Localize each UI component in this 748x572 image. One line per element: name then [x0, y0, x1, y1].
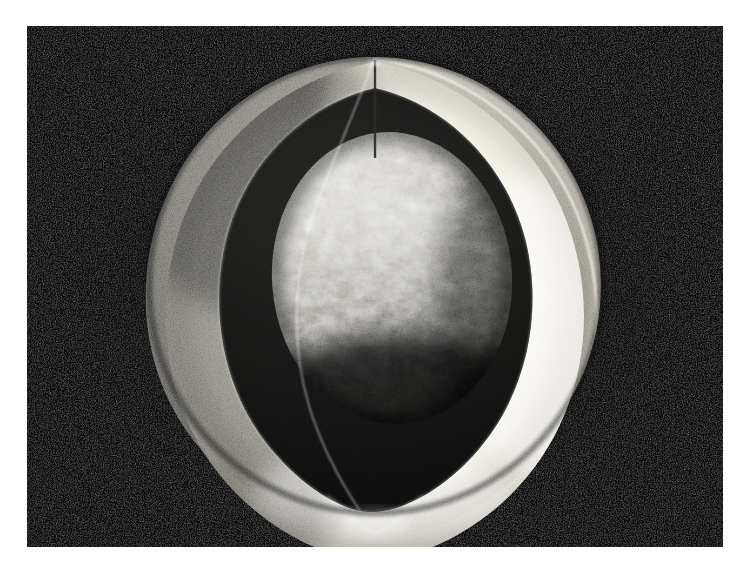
figure-title: Cutaway sphere revealing inner core	[0, 0, 1, 1]
image-plate	[27, 26, 723, 547]
figure-description: A grayscale rendering of a spherical bod…	[0, 0, 1, 1]
cutaway-sphere-scene	[27, 26, 723, 547]
illustration-page: Cutaway sphere revealing inner core A gr…	[0, 0, 748, 572]
figure-caption	[0, 0, 1, 1]
